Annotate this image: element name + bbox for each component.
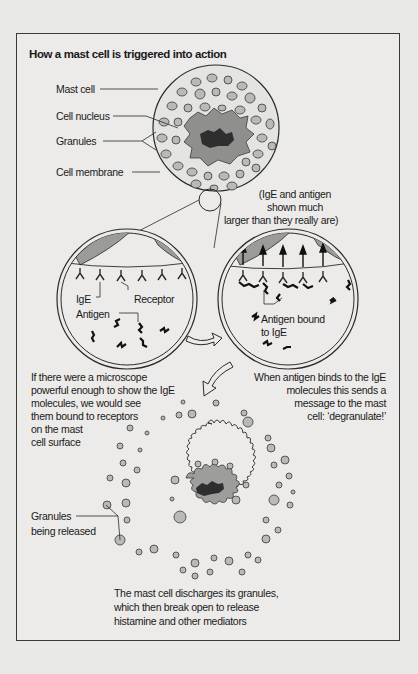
mast-cell-illustration (0, 0, 418, 674)
mast-cell-icon (153, 65, 279, 191)
caption-discharge-1: The mast cell discharges its granules, (114, 587, 278, 600)
degranulating-cell-icon (76, 400, 295, 579)
caption-microscope-6: cell surface (31, 436, 81, 449)
label-scale-note-3: larger than they really are) (224, 214, 338, 227)
caption-binding-1: When antigen binds to the IgE (254, 371, 386, 384)
label-granules-released-2: being released (31, 525, 96, 538)
label-mast-cell: Mast cell (56, 83, 95, 96)
label-antigen-bound-2: to IgE (261, 326, 287, 339)
caption-binding-2: molecules this sends a (286, 384, 386, 397)
label-antigen-bound-1: Antigen bound (261, 313, 325, 326)
label-scale-note-2: shown much (250, 201, 340, 214)
label-granules-released-1: Granules (31, 510, 71, 523)
caption-discharge-2: which then break open to release (114, 601, 259, 614)
caption-microscope-3: molecules, we would see (31, 397, 141, 410)
arrow-icon (186, 333, 233, 396)
label-cell-membrane: Cell membrane (56, 166, 123, 179)
caption-microscope-1: If there were a microscope (31, 371, 147, 384)
caption-binding-3: message to the mast (294, 397, 386, 410)
label-receptor: Receptor (134, 293, 174, 306)
caption-microscope-4: them bound to receptors (31, 410, 138, 423)
label-granules: Granules (56, 135, 96, 148)
label-scale-note-1: (IgE and antigen (250, 188, 340, 201)
caption-microscope-2: powerful enough to show the IgE (31, 384, 175, 397)
caption-microscope-5: on the mast (31, 423, 83, 436)
label-ige: IgE (76, 293, 91, 306)
caption-discharge-3: histamine and other mediators (114, 615, 247, 628)
antigen-bound-zoom-circle (218, 229, 358, 369)
label-cell-nucleus: Cell nucleus (56, 110, 110, 123)
label-antigen: Antigen (76, 308, 110, 321)
caption-binding-4: cell: ‘degranulate!’ (307, 410, 386, 423)
